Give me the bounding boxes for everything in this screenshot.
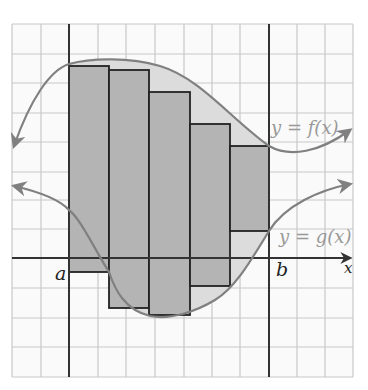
label-a: a <box>55 262 66 284</box>
rectangle-1 <box>69 66 109 272</box>
label-g: y = g(x) <box>278 226 351 247</box>
label-f: y = f(x) <box>270 117 339 138</box>
rectangle-2 <box>109 70 149 308</box>
area-between-curves-diagram: a b x y = f(x) y = g(x) <box>0 0 368 390</box>
rectangle-4 <box>190 124 230 286</box>
label-x-axis: x <box>344 259 353 277</box>
rectangle-3 <box>149 92 190 315</box>
rectangle-5 <box>230 146 269 231</box>
label-b: b <box>276 258 288 280</box>
